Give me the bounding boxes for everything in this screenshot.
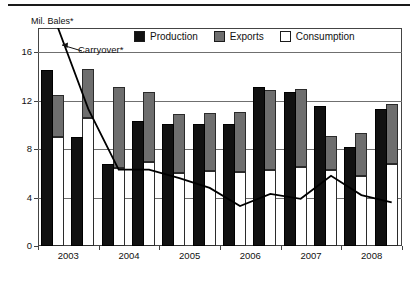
legend-item-label: Consumption xyxy=(296,31,355,42)
x-tick-mark xyxy=(38,246,39,250)
x-tick-label: 2003 xyxy=(48,250,88,261)
carryover-annotation: Carryover* xyxy=(78,44,123,55)
legend-item-production: Production xyxy=(134,31,198,42)
production-swatch-icon xyxy=(134,31,145,42)
legend-item-label: Exports xyxy=(230,31,264,42)
consumption-swatch-icon xyxy=(280,31,291,42)
x-tick-label: 2008 xyxy=(352,250,392,261)
y-tick-label: 0 xyxy=(6,241,32,251)
y-tick-label: 12 xyxy=(6,96,32,106)
chart-legend: Production Exports Consumption xyxy=(134,31,355,42)
x-tick-mark xyxy=(402,246,403,250)
x-tick-mark xyxy=(159,246,160,250)
y-axis-title: Mil. Bales* xyxy=(31,16,77,27)
y-tick-label: 16 xyxy=(6,47,32,57)
x-tick-mark xyxy=(220,246,221,250)
legend-item-consumption: Consumption xyxy=(280,31,355,42)
x-tick-label: 2005 xyxy=(170,250,210,261)
legend-item-label: Production xyxy=(150,31,198,42)
top-rule xyxy=(8,4,410,6)
exports-swatch-icon xyxy=(214,31,225,42)
carryover-line xyxy=(38,28,402,246)
x-tick-mark xyxy=(341,246,342,250)
x-tick-label: 2007 xyxy=(291,250,331,261)
x-tick-label: 2004 xyxy=(109,250,149,261)
x-tick-label: 2006 xyxy=(230,250,270,261)
y-tick-label: 4 xyxy=(6,193,32,203)
legend-item-exports: Exports xyxy=(214,31,264,42)
chart-figure: Mil. Bales* 0481216 20032004200520062007… xyxy=(0,0,418,294)
y-tick-label: 8 xyxy=(6,144,32,154)
x-tick-mark xyxy=(281,246,282,250)
x-tick-mark xyxy=(99,246,100,250)
